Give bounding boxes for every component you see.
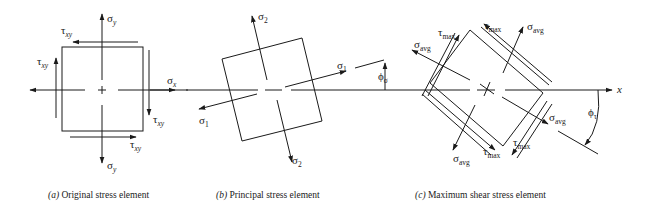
sigma-1-left-arrow xyxy=(199,94,257,109)
panel-b-principal-stress-element: σ2 σ2 σ1 σ1 ϕσ (b) Principal stress elem… xyxy=(199,10,388,201)
tau-xy-right-label: τxy xyxy=(153,113,165,128)
panel-a-original-stress-element: σy σy σx τxy τxy τxy τxy (a) Original st… xyxy=(30,12,177,201)
tau-xy-top-label: τxy xyxy=(61,24,73,39)
sigma-avg-upper-left-label: σavg xyxy=(414,38,431,53)
tau-xy-left-label: τxy xyxy=(37,55,49,70)
sigma-2-bottom-label: σ2 xyxy=(292,154,302,169)
sigma-1-left-label: σ1 xyxy=(199,114,209,129)
phi-sigma-label: ϕσ xyxy=(378,70,388,85)
caption-a: (a) Original stress element xyxy=(48,190,149,201)
sigma-avg-upper-right-label: σavg xyxy=(527,20,544,35)
sigma-y-bottom-label: σy xyxy=(107,159,117,174)
sigma-avg-upper-left-arrow xyxy=(412,50,470,80)
panel-c-max-shear-stress-element: τmax τmax τmax τmax σavg σavg σavg σavg … xyxy=(412,19,599,201)
x-axis-label: x xyxy=(616,83,622,95)
caption-c: (c) Maximum shear stress element xyxy=(415,190,546,201)
sigma-avg-upper-right-arrow xyxy=(503,27,523,73)
sigma-2-bottom-arrow xyxy=(277,100,292,162)
sigma-1-right-arrow xyxy=(285,71,346,87)
sigma-avg-lower-right-label: σavg xyxy=(549,111,566,126)
tau-xy-bottom-label: τxy xyxy=(130,138,142,153)
tau-max-left-label: τmax xyxy=(438,26,456,41)
sigma-avg-lower-left-label: σavg xyxy=(453,152,470,167)
sigma-y-top-label: σy xyxy=(107,12,117,27)
principal-direction-line xyxy=(355,60,384,68)
tau-max-left-arrow xyxy=(428,35,459,96)
sigma-2-top-label: σ2 xyxy=(258,10,268,25)
stress-element-diagram: x σy σy σx τxy τxy τxy τxy (a) Original … xyxy=(0,0,645,207)
sigma-1-right-label: σ1 xyxy=(337,59,347,74)
tau-max-bottom-arrow xyxy=(425,90,495,150)
phi-tau-label: ϕτ xyxy=(588,106,597,121)
sigma-x-label: σx xyxy=(167,74,177,89)
caption-b: (b) Principal stress element xyxy=(216,190,320,201)
